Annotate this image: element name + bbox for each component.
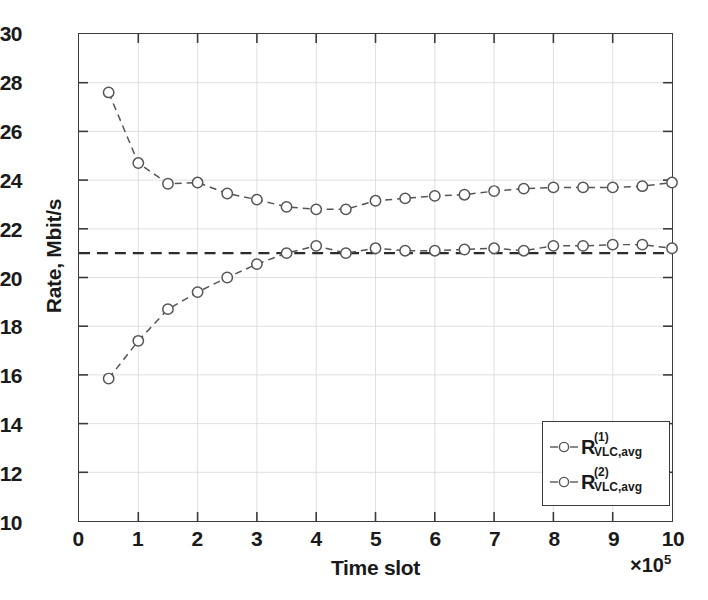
x-axis-tick-7: 7	[465, 528, 525, 549]
y-axis-tick-14: 14	[0, 414, 22, 435]
series-2-point-9	[370, 243, 380, 253]
series-2-point-3	[192, 287, 202, 297]
x-axis-multiplier-exponent: 5	[664, 552, 671, 567]
series-2-point-7	[311, 241, 321, 251]
x-axis-tick-3: 3	[227, 528, 287, 549]
series-1-point-6	[281, 202, 291, 212]
series-1-point-9	[370, 196, 380, 206]
legend-marker-icon-2	[549, 475, 579, 489]
legend-entry-1[interactable]: R(1)VLC,avg	[549, 429, 669, 464]
y-axis-tick-22: 22	[0, 218, 22, 239]
series-1-point-7	[311, 204, 321, 214]
y-axis-tick-12: 12	[0, 463, 22, 484]
series-2-point-16	[578, 241, 588, 251]
series-1-point-1	[133, 158, 143, 168]
series-1-point-4	[222, 188, 232, 198]
y-axis-tick-28: 28	[0, 71, 22, 92]
series-1-point-19	[667, 177, 677, 187]
series-2-point-15	[548, 241, 558, 251]
chart-figure: Rate, Mbit/s 1012141618202224262830 0123…	[0, 0, 708, 600]
x-axis-tick-6: 6	[405, 528, 465, 549]
x-axis-tick-10: 10	[643, 528, 703, 549]
x-axis-tick-2: 2	[167, 528, 227, 549]
series-2-point-2	[163, 304, 173, 314]
series-1-point-0	[103, 87, 113, 97]
series-1-point-2	[163, 179, 173, 189]
series-1-point-11	[430, 191, 440, 201]
series-2-point-12	[459, 244, 469, 254]
x-axis-tick-1: 1	[108, 528, 168, 549]
x-axis-multiplier-base: ×10	[630, 554, 664, 576]
y-axis-tick-18: 18	[0, 316, 22, 337]
legend-entry-2[interactable]: R(2)VLC,avg	[549, 464, 669, 499]
series-line-1	[109, 92, 672, 209]
y-axis-tick-10: 10	[0, 512, 22, 533]
y-axis-tick-24: 24	[0, 169, 22, 190]
legend-marker-icon-1	[549, 440, 579, 454]
y-axis-tick-20: 20	[0, 267, 22, 288]
series-2-point-13	[489, 243, 499, 253]
series-2-point-5	[252, 259, 262, 269]
x-axis-tick-4: 4	[286, 528, 346, 549]
series-line-2	[109, 245, 672, 379]
x-axis-tick-5: 5	[346, 528, 406, 549]
series-2-point-6	[281, 248, 291, 258]
legend-label-2-subscript: VLC,avg	[594, 481, 642, 493]
series-2-point-17	[608, 239, 618, 249]
x-axis-tick-0: 0	[48, 528, 108, 549]
series-1-point-16	[578, 182, 588, 192]
series-1-point-5	[252, 194, 262, 204]
series-1-point-18	[637, 181, 647, 191]
legend-label-1: R(1)VLC,avg	[579, 437, 595, 457]
series-2-point-8	[341, 248, 351, 258]
y-axis-tick-26: 26	[0, 120, 22, 141]
legend-label-1-superscript: (1)	[594, 431, 609, 443]
x-axis-tick-9: 9	[584, 528, 644, 549]
series-2-point-19	[667, 243, 677, 253]
x-axis-tick-8: 8	[524, 528, 584, 549]
series-2-point-1	[133, 336, 143, 346]
series-2-point-10	[400, 246, 410, 256]
series-2-point-11	[430, 246, 440, 256]
y-axis-label: Rate, Mbit/s	[42, 126, 66, 386]
series-1-point-13	[489, 186, 499, 196]
legend-label-2: R(2)VLC,avg	[579, 472, 595, 492]
series-2-point-18	[637, 239, 647, 249]
series-1-point-12	[459, 190, 469, 200]
series-1-point-10	[400, 193, 410, 203]
legend[interactable]: R(1)VLC,avg R(2)VLC,avg	[542, 421, 670, 506]
series-1-point-3	[192, 177, 202, 187]
series-1-point-14	[519, 183, 529, 193]
series-2-point-14	[519, 246, 529, 256]
x-axis-label: Time slot	[78, 556, 673, 580]
series-1-point-17	[608, 182, 618, 192]
y-axis-tick-30: 30	[0, 23, 22, 44]
y-axis-tick-16: 16	[0, 365, 22, 386]
series-2-point-0	[103, 373, 113, 383]
x-axis-multiplier: ×105	[630, 552, 671, 577]
series-2-point-4	[222, 272, 232, 282]
series-1-point-15	[548, 182, 558, 192]
legend-label-1-subscript: VLC,avg	[594, 446, 642, 458]
legend-label-2-superscript: (2)	[594, 466, 609, 478]
series-1-point-8	[341, 204, 351, 214]
